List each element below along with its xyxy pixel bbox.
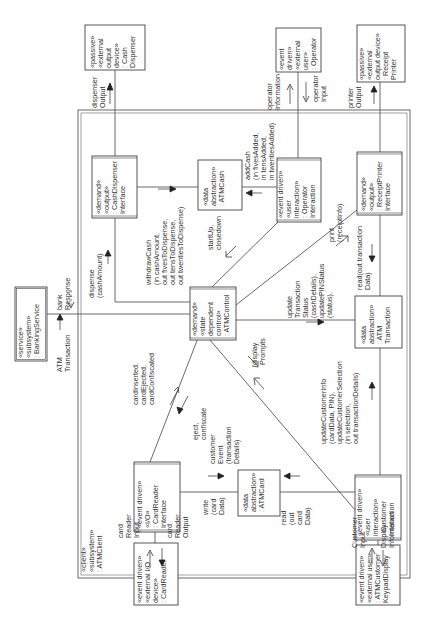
arrow-right-icon	[218, 473, 224, 479]
operator-interaction-object: «event driven» «user interaction» : Oper…	[276, 158, 321, 222]
receipt-printer-interface-object: «demand» «output» : ReceiptPrinter Inter…	[357, 152, 402, 215]
atm-card-object: «data abstraction» : ATMCard	[238, 470, 280, 516]
arrow-left-icon	[284, 473, 290, 479]
banking-service-object: «service» «subsystem» : BankingService	[15, 287, 47, 361]
msg-startup-closedown: startUp, closedown	[206, 216, 223, 250]
msg-atm-transaction: ATM Transaction	[55, 335, 72, 372]
arrow-up-icon	[57, 314, 63, 320]
cash-dispenser-object: «passive» «external output device» : Cas…	[85, 25, 145, 70]
arrow-down-icon	[369, 256, 375, 262]
atm-client-communication-diagram: «passive» «external output device» : Cas…	[0, 0, 425, 631]
atm-cash-object: «data abstraction» : ATMCash	[198, 160, 242, 210]
cash-dispenser-interface-object: «demand» «output» : CashDispenser Interf…	[92, 156, 137, 218]
arrow-left-icon	[246, 190, 252, 196]
msg-dispense: dispense (cashAmount)	[87, 253, 104, 298]
arrow-diagonal-icon	[226, 251, 232, 257]
msg-operator-information: operator Information	[265, 74, 282, 110]
msg-customer-event: customer Event (transaction Details)	[208, 424, 241, 464]
receipt-printer-object: «passive» «external output device» : Rec…	[357, 25, 405, 82]
arrow-up-icon	[107, 83, 113, 90]
keypad-display-label: «event driven» «external user» : ATMCust…	[357, 551, 390, 603]
msg-card-events: cardInserted, cardEjected, cardConfiscat…	[131, 353, 156, 405]
atm-control-object: «demand» «state dependent control» : ATM…	[190, 287, 236, 340]
atm-client-subsystem-label: «client» «subsystem» : ATMClient	[79, 528, 104, 572]
msg-eject-confiscate: eject, confiscate	[191, 408, 208, 440]
msg-update-customer: updateCustomerInfo (cardData, PIN), upda…	[319, 359, 360, 444]
arrow-diagonal-icon	[177, 407, 183, 414]
atm-transaction-object: «data abstraction» : ATM Transaction	[355, 296, 402, 348]
msg-withdraw-cash: withdrawCash (in cashAmount, out fivesTo…	[144, 207, 185, 286]
arrow-up-icon	[369, 382, 375, 388]
msg-print: print (receiptInfo)	[327, 204, 344, 242]
msg-add-cash: addCash (in fivesAdded, in tensAdded, in…	[243, 123, 276, 180]
card-reader-object: «event driven» «external I/O device» : C…	[134, 543, 178, 605]
keypad-display-object: «event driven» «external user» : ATMCust…	[356, 545, 400, 605]
msg-dispenser-output: dispenser Output	[90, 75, 107, 108]
msg-read-card: read (out card Data)	[279, 507, 312, 525]
msg-printer-output: printer Output	[346, 86, 363, 108]
operator-object: «event driven» «external user» : Operato…	[276, 28, 321, 72]
msg-write-card: write (card Data)	[201, 497, 226, 516]
msg-operator-input: operator Input	[311, 73, 328, 102]
arrow-up-icon	[371, 86, 377, 92]
arrow-up-icon	[105, 250, 111, 256]
atm-control-label: «demand» «state dependent control» : ATM…	[190, 294, 231, 336]
msg-update-transaction-status: update Transaction Status (cashDetails),…	[285, 262, 334, 318]
